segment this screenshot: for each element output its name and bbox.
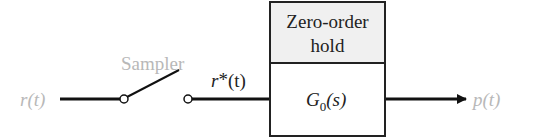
input-signal-label: r(t)	[20, 89, 45, 111]
sampled-label-star: *	[218, 69, 228, 90]
sampled-label-arg: (t)	[228, 70, 246, 92]
sampler-switch-arm	[127, 70, 179, 97]
zoh-label-line2: hold	[311, 35, 345, 56]
tf-main: G	[306, 89, 320, 110]
sampler-terminal-right-icon	[184, 95, 192, 103]
zoh-label-line1: Zero-order	[286, 11, 369, 32]
tf-arg: (s)	[326, 89, 346, 111]
output-signal-label: p(t)	[471, 89, 500, 111]
sampler-zoh-diagram: r(t) Sampler r*(t) Zero-order hold G0(s)…	[0, 0, 533, 139]
sampled-signal-label: r*(t)	[211, 69, 246, 92]
